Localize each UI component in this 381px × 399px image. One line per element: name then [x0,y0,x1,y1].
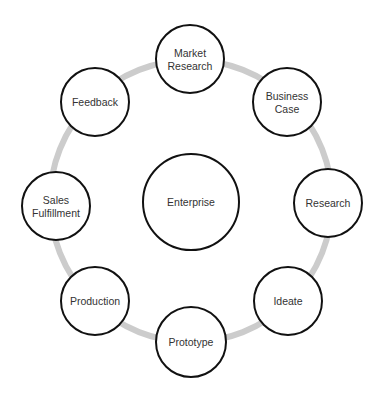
cycle-node-market-research: MarketResearch [156,25,224,93]
cycle-node-sales-fulfillment: SalesFulfillment [22,172,90,240]
cycle-node-business-case: BusinessCase [253,68,321,136]
node-label: Prototype [169,336,214,348]
center-label: Enterprise [167,196,215,208]
node-label: Feedback [72,96,119,108]
cycle-node-research: Research [294,169,362,237]
cycle-node-production: Production [61,267,129,335]
cycle-diagram: MarketResearchBusinessCaseResearchIdeate… [0,0,381,399]
cycle-node-feedback: Feedback [61,68,129,136]
node-label: Sales [43,194,69,206]
cycle-node-prototype: Prototype [156,307,226,377]
node-label: Research [306,197,351,209]
node-label: Case [275,103,300,115]
node-label: Fulfillment [32,207,80,219]
center-node-enterprise: Enterprise [143,154,239,250]
cycle-node-ideate: Ideate [254,267,322,335]
node-label: Market [174,47,206,59]
node-label: Research [168,60,213,72]
node-label: Ideate [273,295,302,307]
node-label: Production [70,295,120,307]
node-label: Business [266,90,309,102]
